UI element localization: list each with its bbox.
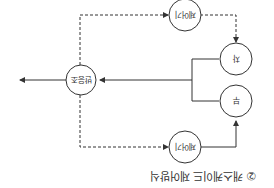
- bottom-to-secondary: [201, 121, 236, 147]
- caption: ② 캐스케이드 제어방식: [150, 169, 257, 182]
- diagram: 제어기 차 부 반응조 제어기 ② 캐스케이드 제어방식: [0, 0, 274, 188]
- controller-top-label: 제어기: [175, 10, 196, 20]
- process-label: 반응조: [71, 75, 92, 84]
- feedback-top: [80, 15, 168, 65]
- cascade-control-diagram: 제어기 차 부 반응조 제어기 ② 캐스케이드 제어방식: [0, 0, 274, 188]
- feedback-top-down: [200, 15, 236, 42]
- controller-bottom-label: 제어기: [175, 142, 196, 152]
- feedback-bottom: [80, 95, 168, 147]
- secondary-label: 부: [233, 96, 240, 105]
- junction-lines: [192, 59, 219, 101]
- primary-label: 차: [232, 54, 240, 63]
